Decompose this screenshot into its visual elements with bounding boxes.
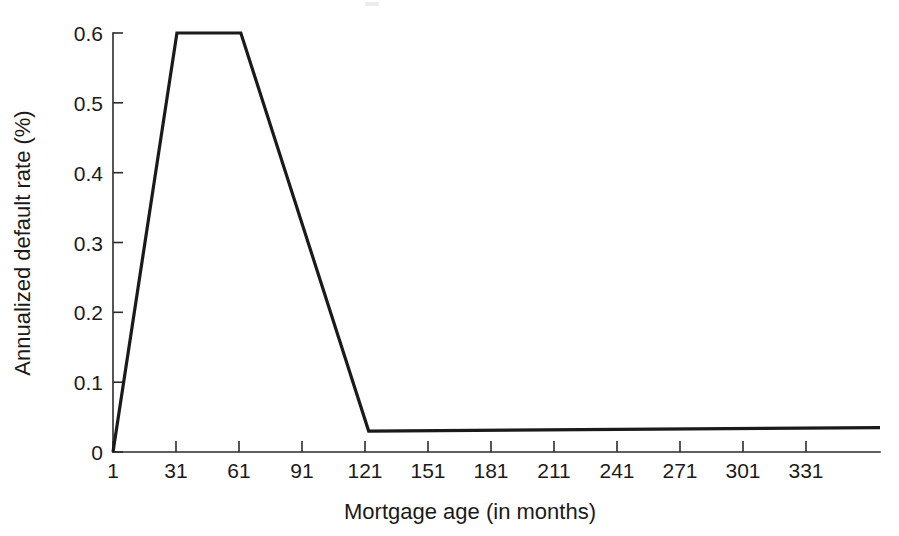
y-tick-label-0p4: 0.4 <box>74 162 104 185</box>
x-tick-labels: 1 31 61 91 121 151 181 211 241 271 301 3… <box>107 459 823 482</box>
x-tick-label-331: 331 <box>788 459 823 482</box>
x-tick-label-151: 151 <box>410 459 445 482</box>
y-tick-label-0p6: 0.6 <box>74 22 103 45</box>
x-tick-label-241: 241 <box>599 459 634 482</box>
x-tick-label-121: 121 <box>347 459 382 482</box>
x-tick-label-61: 61 <box>227 459 250 482</box>
y-axis-title: Annualized default rate (%) <box>10 110 35 375</box>
y-tick-labels: 0 0.1 0.2 0.3 0.4 0.5 0.6 <box>74 22 104 464</box>
chart-figure: 0 0.1 0.2 0.3 0.4 0.5 0.6 1 31 <box>0 0 899 536</box>
y-tick-label-0p5: 0.5 <box>74 92 103 115</box>
x-tick-label-91: 91 <box>290 459 313 482</box>
y-tick-label-0p3: 0.3 <box>74 232 103 255</box>
data-series-line <box>113 33 880 452</box>
x-tick-label-211: 211 <box>537 459 570 482</box>
x-tick-label-301: 301 <box>725 459 760 482</box>
x-tick-marks <box>113 441 806 452</box>
y-tick-label-0p1: 0.1 <box>74 371 103 394</box>
y-tick-label-0: 0 <box>91 441 103 464</box>
x-tick-label-181: 181 <box>473 459 508 482</box>
chart-plot-area: 0 0.1 0.2 0.3 0.4 0.5 0.6 1 31 <box>0 0 899 536</box>
x-tick-label-1: 1 <box>107 459 119 482</box>
y-tick-label-0p2: 0.2 <box>74 301 103 324</box>
x-axis-title: Mortgage age (in months) <box>344 499 596 524</box>
x-tick-label-31: 31 <box>164 459 187 482</box>
x-tick-label-271: 271 <box>662 459 697 482</box>
